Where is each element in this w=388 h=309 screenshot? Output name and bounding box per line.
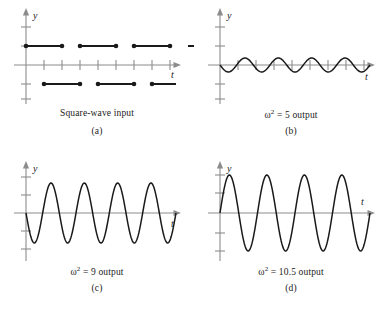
plot-a-svg: y t <box>0 0 194 110</box>
plot-d-omega105-output: y t <box>194 155 388 267</box>
y-axis-arrow-b <box>217 8 223 16</box>
plot-a-square-wave: y t <box>0 0 194 110</box>
panel-b: y t ω2 = 5 output (b) <box>194 0 388 155</box>
plot-c-svg: y t <box>0 155 194 267</box>
plot-c-omega9-output: y t <box>0 155 194 267</box>
panel-d-letter: (d) <box>194 283 388 293</box>
panel-d: y t ω2 = 10.5 output (d) <box>194 155 388 309</box>
t-axis-label-b: t <box>365 71 368 82</box>
panel-c-caption: ω2 = 9 output <box>0 265 194 277</box>
panel-c-omega-exponent: 2 <box>77 265 81 273</box>
plot-d-svg: y t <box>194 155 388 267</box>
panel-d-caption-rest: = 10.5 output <box>271 267 324 277</box>
t-axis-arrow-c <box>174 210 182 216</box>
t-axis-label-c: t <box>171 218 174 229</box>
panel-c-caption-rest: = 9 output <box>83 267 124 277</box>
panel-b-caption-rest: = 5 output <box>277 110 318 120</box>
t-axis-label-d: t <box>361 196 364 207</box>
t-axis-label-a: t <box>171 69 174 80</box>
t-axis-arrow-d <box>368 210 376 216</box>
panel-a: y t Square-wave input (a) <box>0 0 194 155</box>
t-axis-arrow-a <box>174 62 182 68</box>
panel-c: y t ω2 = 9 output (c) <box>0 155 194 309</box>
panel-b-letter: (b) <box>194 126 388 136</box>
plot-b-svg: y t <box>194 0 388 110</box>
panel-c-letter: (c) <box>0 283 194 293</box>
panel-a-caption: Square-wave input <box>0 108 194 118</box>
y-axis-label-b: y <box>226 10 232 21</box>
y-axis-arrow-a <box>23 8 29 16</box>
y-axis-arrow-c <box>23 161 29 169</box>
y-axis-label-a: y <box>32 10 38 21</box>
y-axis-label-c: y <box>32 163 38 174</box>
y-axis-arrow-d <box>217 161 223 169</box>
panel-b-caption: ω2 = 5 output <box>194 108 388 120</box>
panel-a-letter: (a) <box>0 126 194 136</box>
panel-d-caption: ω2 = 10.5 output <box>194 265 388 277</box>
plot-b-omega5-output: y t <box>194 0 388 110</box>
panel-b-omega-exponent: 2 <box>271 108 275 116</box>
y-axis-label-d: y <box>226 163 232 174</box>
panel-d-omega-exponent: 2 <box>265 265 269 273</box>
figure-grid: y t Square-wave input (a) <box>0 0 388 309</box>
